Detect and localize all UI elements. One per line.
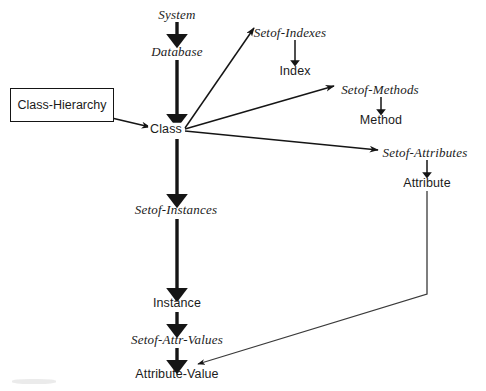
diagram-edges-layer bbox=[0, 0, 486, 391]
node-setof-attr-values: Setof-Attr-Values bbox=[131, 333, 223, 346]
node-attribute: Attribute bbox=[403, 177, 450, 190]
node-setof-instances: Setof-Instances bbox=[135, 203, 217, 216]
node-setof-attributes: Setof-Attributes bbox=[383, 146, 468, 159]
edge-class-to-setof-methods bbox=[185, 86, 334, 129]
diagram-canvas: System Database Class-Hierarchy Class Se… bbox=[0, 0, 486, 391]
node-database: Database bbox=[151, 45, 202, 58]
node-method: Method bbox=[360, 114, 402, 127]
node-setof-indexes: Setof-Indexes bbox=[254, 26, 327, 39]
node-system: System bbox=[158, 8, 195, 21]
node-index: Index bbox=[279, 65, 310, 78]
node-class: Class bbox=[148, 123, 184, 136]
node-class-hierarchy-label: Class-Hierarchy bbox=[15, 99, 110, 112]
scan-artifact bbox=[12, 379, 56, 384]
edge-class-to-setof-attributes bbox=[185, 131, 378, 150]
edge-attribute-to-attribute-value bbox=[198, 191, 427, 364]
node-attribute-value: Attribute-Value bbox=[135, 368, 218, 381]
node-class-hierarchy: Class-Hierarchy bbox=[10, 88, 114, 122]
node-setof-methods: Setof-Methods bbox=[341, 83, 419, 96]
node-instance: Instance bbox=[153, 297, 201, 310]
